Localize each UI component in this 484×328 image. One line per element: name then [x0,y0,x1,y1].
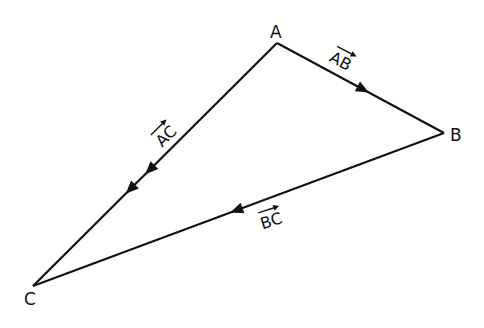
vector-label-ab-group: AB [326,43,358,75]
vector-triangle-diagram: A B C AB AC BC [0,0,484,328]
side-ac [33,43,277,286]
vector-label-ac-group: AC [148,117,181,150]
vertex-label-a: A [270,22,282,42]
vector-label-ac: AC [152,122,181,151]
vector-label-ab: AB [326,48,354,75]
vector-label-bc-group: BC [256,203,285,233]
arrowhead-bc-1 [230,203,244,213]
vertex-label-b: B [450,125,462,145]
vertex-label-c: C [24,289,36,309]
